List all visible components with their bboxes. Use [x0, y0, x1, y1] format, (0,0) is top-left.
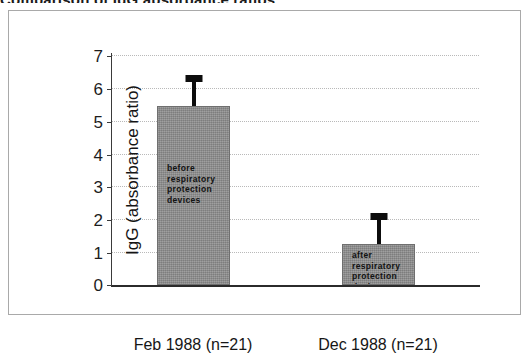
clipped-caption-text: Comparison of IgG absorbance ratios [0, 0, 531, 3]
y-tick-label-0: 0 [94, 277, 103, 294]
error-bar-feb-1988 [157, 75, 230, 106]
figure-frame: 7 6 5 4 3 2 1 [8, 10, 521, 315]
y-axis-label: IgG (absorbance ratio) [123, 85, 143, 255]
y-tick-label-3: 3 [94, 179, 103, 196]
tick-mark-6 [107, 89, 112, 90]
tick-mark-5 [107, 122, 112, 123]
y-tick-label-1: 1 [94, 245, 103, 262]
plot-area: 7 6 5 4 3 2 1 [112, 55, 479, 285]
x-tick-label-feb-1988: Feb 1988 (n=21) [134, 336, 253, 354]
bar-annotation-dec-1988: after respiratory protection devices [352, 250, 400, 285]
y-tick-label-4: 4 [94, 146, 103, 163]
y-tick-label-7: 7 [94, 48, 103, 65]
tick-mark-4 [107, 155, 112, 156]
gridline-7: 7 [112, 55, 479, 56]
bar-feb-1988[interactable]: before respiratory protection devices [157, 106, 230, 285]
error-bar-cap-feb-1988 [185, 75, 202, 82]
bar-annotation-feb-1988: before respiratory protection devices [167, 163, 215, 205]
error-bar-dec-1988 [342, 213, 415, 244]
x-axis-line [111, 285, 480, 287]
tick-mark-3 [107, 187, 112, 188]
tick-mark-7 [107, 56, 112, 57]
tick-mark-1 [107, 253, 112, 254]
y-tick-label-2: 2 [94, 212, 103, 229]
y-tick-label-6: 6 [94, 80, 103, 97]
x-tick-label-dec-1988: Dec 1988 (n=21) [318, 336, 438, 354]
tick-mark-0 [107, 285, 112, 286]
error-bar-cap-dec-1988 [370, 213, 387, 220]
tick-mark-2 [107, 220, 112, 221]
bar-dec-1988[interactable]: after respiratory protection devices [342, 244, 415, 285]
y-tick-label-5: 5 [94, 113, 103, 130]
